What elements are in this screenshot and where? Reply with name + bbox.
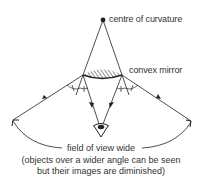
eye-icon xyxy=(93,124,109,138)
field-of-view-label: field of view wide xyxy=(0,143,202,154)
ray-arrow-icons xyxy=(42,94,161,99)
caption-line-1: (objects over a wider angle can be seen xyxy=(0,155,202,166)
caption-line-2: but their images are diminished) xyxy=(0,166,202,177)
centre-of-curvature-label: centre of curvature xyxy=(109,14,182,24)
reflected-ray-arrow-icons xyxy=(89,102,114,108)
normal-lines xyxy=(76,20,129,95)
convex-mirror xyxy=(83,70,122,79)
incident-rays xyxy=(13,75,191,121)
convex-mirror-label: convex mirror xyxy=(129,65,182,75)
centre-of-curvature-point xyxy=(101,18,106,23)
reflected-rays xyxy=(83,75,122,124)
